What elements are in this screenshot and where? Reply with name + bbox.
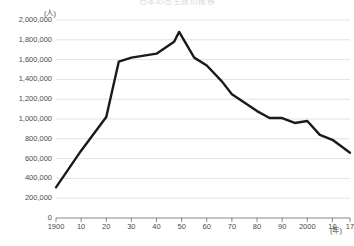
x-axis-tick-label: 10 (77, 223, 85, 231)
y-axis-tick-label: 0 (0, 214, 52, 222)
chart-plot-area (0, 0, 354, 246)
x-axis-tick-label: 90 (278, 223, 286, 231)
x-axis-tick-label: 2000 (299, 223, 316, 231)
y-axis-tick-label: 2,000,000 (0, 16, 52, 24)
y-axis-tick-label: 1,600,000 (0, 56, 52, 64)
x-axis-tick-label: 80 (253, 223, 261, 231)
x-axis-tick-label: 30 (127, 223, 135, 231)
x-axis-tick-label: 40 (152, 223, 160, 231)
gridlines (56, 20, 350, 198)
x-axis-tick-label: 60 (203, 223, 211, 231)
y-axis-tick-label: 1,200,000 (0, 95, 52, 103)
y-axis-tick-label: 400,000 (0, 174, 52, 182)
x-axis-tick-label: 20 (102, 223, 110, 231)
data-series-line (56, 32, 350, 187)
x-axis-unit-label: (年) (330, 224, 342, 235)
x-axis-tick-label: 50 (177, 223, 185, 231)
x-axis-tick-label: 17 (346, 223, 354, 231)
x-axis-tick-label: 1900 (48, 223, 65, 231)
y-axis-tick-label: 1,000,000 (0, 115, 52, 123)
y-axis-tick-label: 1,800,000 (0, 36, 52, 44)
y-axis-tick-label: 1,400,000 (0, 75, 52, 83)
y-axis-tick-label: 800,000 (0, 135, 52, 143)
y-axis-tick-label: 600,000 (0, 155, 52, 163)
line-chart: 日本の出生数の推移 (人) 0200,000400,000600,000800,… (0, 0, 354, 246)
y-axis-tick-label: 200,000 (0, 194, 52, 202)
x-axis-tick-label: 70 (228, 223, 236, 231)
